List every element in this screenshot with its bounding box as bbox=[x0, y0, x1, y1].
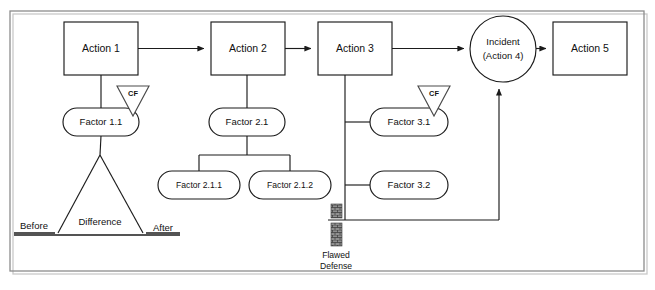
event-node-action5[interactable]: Action 5 bbox=[553, 22, 627, 75]
connector-factor11-difference bbox=[100, 136, 101, 155]
events-causal-factors-chart: Action 1 Action 2 Action 3 Incident (Act… bbox=[0, 0, 655, 290]
factor-node-factor212[interactable]: Factor 2.1.2 bbox=[249, 171, 331, 199]
barrier-flawed-defense[interactable]: Flawed Defense bbox=[320, 204, 352, 271]
factor-label-factor31: Factor 3.1 bbox=[388, 116, 431, 127]
label-after: After bbox=[153, 222, 173, 233]
event-label-action5: Action 5 bbox=[571, 42, 609, 54]
flawed-defense-brick-upper bbox=[331, 204, 342, 218]
event-label-action3: Action 3 bbox=[336, 42, 374, 54]
event-node-incident[interactable]: Incident (Action 4) bbox=[470, 16, 536, 82]
factor-node-factor11[interactable]: Factor 1.1 bbox=[63, 108, 139, 136]
causal-factor-label-cf2: CF bbox=[429, 89, 439, 98]
flawed-defense-brick-lower bbox=[331, 223, 342, 246]
causal-factor-label-cf1: CF bbox=[128, 89, 138, 98]
barrier-label-line2: Defense bbox=[320, 261, 352, 271]
factor-node-factor21[interactable]: Factor 2.1 bbox=[209, 108, 285, 136]
factor-node-factor32[interactable]: Factor 3.2 bbox=[370, 171, 448, 199]
factor-nodes: Factor 1.1 Factor 2.1 Factor 2.1.1 Facto… bbox=[63, 108, 448, 199]
event-label-action1: Action 1 bbox=[82, 42, 120, 54]
label-difference: Difference bbox=[78, 216, 121, 227]
factor-label-factor21: Factor 2.1 bbox=[226, 116, 269, 127]
event-node-action1[interactable]: Action 1 bbox=[64, 22, 138, 75]
difference-comparison[interactable]: Before Difference After bbox=[14, 155, 180, 235]
event-label-incident-line1: Incident bbox=[486, 36, 520, 47]
factor-label-factor32: Factor 3.2 bbox=[388, 179, 431, 190]
factor-label-factor11: Factor 1.1 bbox=[80, 116, 123, 127]
barrier-label-line1: Flawed bbox=[322, 250, 350, 260]
factor-label-factor212: Factor 2.1.2 bbox=[267, 180, 313, 190]
event-label-action2: Action 2 bbox=[229, 42, 267, 54]
event-label-incident-line2: (Action 4) bbox=[483, 50, 524, 61]
diagram-canvas: Action 1 Action 2 Action 3 Incident (Act… bbox=[0, 0, 655, 290]
label-before: Before bbox=[20, 220, 48, 231]
event-node-action2[interactable]: Action 2 bbox=[211, 22, 285, 75]
factor-label-factor211: Factor 2.1.1 bbox=[176, 180, 222, 190]
factor-node-factor211[interactable]: Factor 2.1.1 bbox=[158, 171, 240, 199]
event-node-action3[interactable]: Action 3 bbox=[318, 22, 392, 75]
